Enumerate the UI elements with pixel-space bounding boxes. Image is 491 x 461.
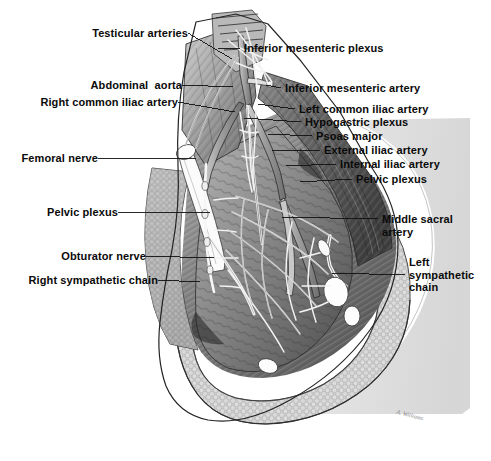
- anatomical-plate: Testicular arteries Abdominal aorta Righ…: [0, 0, 491, 461]
- label-hypogastric-plexus: Hypogastric plexus: [305, 116, 408, 129]
- label-psoas-major: Psoas major: [316, 130, 383, 143]
- label-femoral-nerve: Femoral nerve: [0, 152, 98, 165]
- label-inferior-mesenteric-plexus: Inferior mesenteric plexus: [244, 42, 384, 55]
- label-right-common-iliac-artery: Right common iliac artery: [0, 96, 178, 109]
- label-pelvic-plexus-left: Pelvic plexus: [0, 206, 118, 219]
- label-testicular-arteries: Testicular arteries: [0, 27, 188, 40]
- label-pelvic-plexus-right: Pelvic plexus: [356, 173, 427, 186]
- label-right-sympathetic-chain: Right sympathetic chain: [0, 274, 158, 287]
- label-obturator-nerve: Obturator nerve: [0, 250, 146, 263]
- label-abdominal-aorta: Abdominal aorta: [0, 79, 182, 92]
- label-external-iliac-artery: External iliac artery: [324, 144, 428, 157]
- label-left-common-iliac-artery: Left common iliac artery: [299, 103, 429, 116]
- label-inferior-mesenteric-artery: Inferior mesenteric artery: [285, 82, 420, 95]
- label-left-sympathetic-chain: Left sympathetic chain: [409, 256, 474, 294]
- label-middle-sacral-artery: Middle sacral artery: [382, 213, 453, 238]
- label-internal-iliac-artery: Internal iliac artery: [340, 158, 440, 171]
